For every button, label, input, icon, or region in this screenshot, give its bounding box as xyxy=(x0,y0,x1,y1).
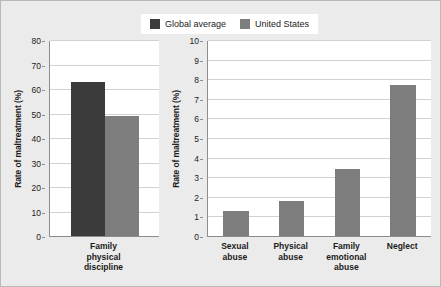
y-tick-label: 10 xyxy=(32,208,41,218)
y-tick-label: 0 xyxy=(194,232,199,242)
y-tick-label: 30 xyxy=(32,159,41,169)
y-tick-mark xyxy=(42,90,45,91)
y-tick-label: 50 xyxy=(32,110,41,120)
bar xyxy=(390,85,416,236)
y-tick-mark xyxy=(42,66,45,67)
bar xyxy=(335,169,361,236)
chart-figure: Global average United States Rate of mal… xyxy=(0,0,441,287)
legend-swatch-united-states xyxy=(240,19,250,29)
y-tick-label: 5 xyxy=(194,134,199,144)
y-tick-label: 0 xyxy=(36,232,41,242)
y-axis-ticks-right: 012345678910 xyxy=(183,41,203,237)
y-tick-label: 40 xyxy=(32,134,41,144)
y-axis-title-left: Rate of maltreatment (%) xyxy=(11,41,25,237)
y-tick-mark xyxy=(200,237,203,238)
y-tick-label: 10 xyxy=(190,36,199,46)
legend-swatch-global-average xyxy=(150,19,160,29)
y-tick-mark xyxy=(42,164,45,165)
y-tick-label: 2 xyxy=(194,193,199,203)
y-tick-mark xyxy=(200,159,203,160)
y-tick-mark xyxy=(200,61,203,62)
bar-group-right xyxy=(208,41,431,236)
bar xyxy=(279,201,305,236)
bar-group-left xyxy=(50,41,159,236)
bar xyxy=(71,82,105,236)
y-tick-mark xyxy=(200,178,203,179)
x-category-label: Familyemotionalabuse xyxy=(326,241,366,273)
y-axis-title-right: Rate of maltreatment (%) xyxy=(169,41,183,237)
x-axis-categories-right: SexualabusePhysicalabuseFamilyemotionala… xyxy=(207,239,431,279)
y-tick-label: 7 xyxy=(194,95,199,105)
y-tick-mark xyxy=(200,139,203,140)
y-tick-label: 70 xyxy=(32,61,41,71)
y-tick-label: 9 xyxy=(194,56,199,66)
y-tick-mark xyxy=(42,213,45,214)
y-tick-label: 4 xyxy=(194,154,199,164)
y-tick-mark xyxy=(200,119,203,120)
y-tick-label: 3 xyxy=(194,173,199,183)
legend-entry-united-states: United States xyxy=(240,19,309,29)
x-axis-categories-left: Family physicaldiscipline xyxy=(49,239,159,279)
plot-area-right xyxy=(207,41,431,237)
y-axis-title-right-text: Rate of maltreatment (%) xyxy=(171,90,181,188)
y-tick-mark xyxy=(42,237,45,238)
y-tick-mark xyxy=(200,41,203,42)
y-tick-mark xyxy=(200,80,203,81)
y-tick-label: 60 xyxy=(32,85,41,95)
x-category-label: Sexualabuse xyxy=(221,241,248,262)
y-tick-mark xyxy=(200,100,203,101)
y-tick-mark xyxy=(42,115,45,116)
x-category-label: Family physicaldiscipline xyxy=(76,241,132,273)
y-tick-label: 20 xyxy=(32,183,41,193)
bar xyxy=(223,211,249,236)
legend-label-united-states: United States xyxy=(255,20,309,29)
y-tick-label: 6 xyxy=(194,114,199,124)
y-tick-mark xyxy=(42,41,45,42)
x-category-label: Neglect xyxy=(387,241,418,252)
y-tick-label: 1 xyxy=(194,212,199,222)
y-axis-title-left-text: Rate of maltreatment (%) xyxy=(13,90,23,188)
bar xyxy=(105,116,139,236)
legend-label-global-average: Global average xyxy=(165,20,226,29)
chart-legend: Global average United States xyxy=(141,14,318,34)
y-tick-mark xyxy=(200,198,203,199)
y-tick-label: 80 xyxy=(32,36,41,46)
y-tick-label: 8 xyxy=(194,75,199,85)
y-tick-mark xyxy=(42,188,45,189)
y-axis-ticks-left: 01020304050607080 xyxy=(25,41,45,237)
y-tick-mark xyxy=(42,139,45,140)
x-category-label: Physicalabuse xyxy=(273,241,308,262)
plot-area-left xyxy=(49,41,159,237)
legend-entry-global-average: Global average xyxy=(150,19,226,29)
y-tick-mark xyxy=(200,217,203,218)
